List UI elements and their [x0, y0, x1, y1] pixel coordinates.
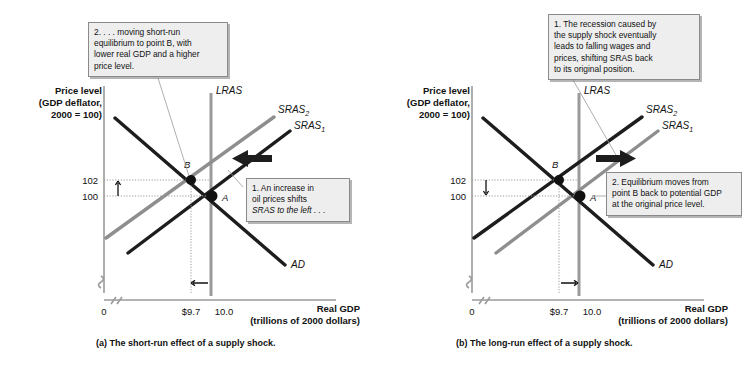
y-axis-line1: Price level	[6, 85, 102, 97]
callout-line: to its original position.	[554, 64, 694, 75]
sras2-label: SRAS2	[278, 104, 309, 117]
point-b-marker	[186, 175, 196, 185]
panel-a-callout-2: 2. . . . moving short-run equilibrium to…	[88, 22, 228, 77]
gdp-right-arrow	[561, 280, 578, 285]
callout-line: lower real GDP and a higher	[94, 49, 222, 60]
x-axis-line2: (trillions of 2000 dollars)	[228, 315, 360, 327]
callout-line: 1. An increase in	[252, 183, 344, 194]
price-level-up-arrow	[115, 181, 120, 196]
x-tick-97: $9.7	[550, 306, 569, 317]
point-a-marker	[207, 191, 218, 202]
x-axis-line1: Real GDP	[596, 303, 728, 315]
y-axis-line2: (GDP deflator,	[374, 97, 470, 109]
lras-label: LRAS	[584, 85, 610, 96]
panel-a-x-axis-title: Real GDP (trillions of 2000 dollars)	[228, 303, 360, 327]
panel-b-y-axis-title: Price level (GDP deflator, 2000 = 100)	[374, 85, 470, 121]
sras2-label: SRAS2	[646, 104, 677, 117]
panel-b-caption: (b) The long-run effect of a supply shoc…	[456, 338, 633, 348]
sras1-label: SRAS1	[662, 120, 693, 133]
y-axis-line3: 2000 = 100)	[374, 109, 470, 121]
x-tick-97: $9.7	[182, 306, 201, 317]
callout-line: at the original price level.	[612, 199, 736, 210]
point-b-label: B	[552, 159, 559, 170]
callout-line: 2. Equilibrium moves from	[612, 177, 736, 188]
y-axis-line3: 2000 = 100)	[6, 109, 102, 121]
point-b-marker	[554, 175, 564, 185]
panel-a-caption: (a) The short-run effect of a supply sho…	[96, 338, 276, 348]
panel-b-long-run: Price level (GDP deflator, 2000 = 100) R…	[368, 0, 736, 372]
panel-b-callout-2: 2. Equilibrium moves from point B back t…	[606, 172, 742, 216]
y-axis-line1: Price level	[374, 85, 470, 97]
callout-line: oil prices shifts	[252, 194, 344, 205]
y-axis-break	[467, 276, 472, 288]
y-axis-break	[99, 276, 104, 288]
callout-line: SRAS to the left . . .	[252, 205, 344, 216]
callout-line: equilibrium to point B, with	[94, 38, 222, 49]
y-tick-102: 102	[450, 175, 466, 186]
ad-label: AD	[290, 259, 305, 270]
point-a-label: A	[589, 192, 596, 203]
y-axis-line2: (GDP deflator,	[6, 97, 102, 109]
callout-line: prices, shifting SRAS back	[554, 53, 694, 64]
panel-b-callout-1: 1. The recession caused by the supply sh…	[548, 14, 700, 80]
callout-line: leads to falling wages and	[554, 41, 694, 52]
panel-a-short-run: Price level (GDP deflator, 2000 = 100) R…	[0, 0, 368, 372]
shift-arrow-left	[232, 150, 272, 167]
gdp-left-arrow	[191, 280, 208, 285]
callout-line: price level.	[94, 61, 222, 72]
point-a-label: A	[221, 192, 228, 203]
point-a-marker	[575, 191, 586, 202]
y-tick-100: 100	[450, 191, 466, 202]
x-axis-line2: (trillions of 2000 dollars)	[596, 315, 728, 327]
callout-line: 2. . . . moving short-run	[94, 27, 222, 38]
panel-a-callout-1: 1. An increase in oil prices shifts SRAS…	[246, 178, 350, 222]
sras1-label: SRAS1	[294, 120, 325, 133]
x-axis-line1: Real GDP	[228, 303, 360, 315]
callout-line: point B back to potential GDP	[612, 188, 736, 199]
callout-line: the supply shock eventually	[554, 30, 694, 41]
y-tick-100: 100	[82, 191, 98, 202]
ad-label: AD	[658, 259, 673, 270]
y-tick-102: 102	[82, 175, 98, 186]
panel-a-y-axis-title: Price level (GDP deflator, 2000 = 100)	[6, 85, 102, 121]
lras-label: LRAS	[216, 85, 242, 96]
callout-line: 1. The recession caused by	[554, 19, 694, 30]
origin-label: 0	[469, 306, 474, 317]
origin-label: 0	[101, 306, 106, 317]
price-level-down-arrow	[483, 180, 488, 195]
panel-b-x-axis-title: Real GDP (trillions of 2000 dollars)	[596, 303, 728, 327]
